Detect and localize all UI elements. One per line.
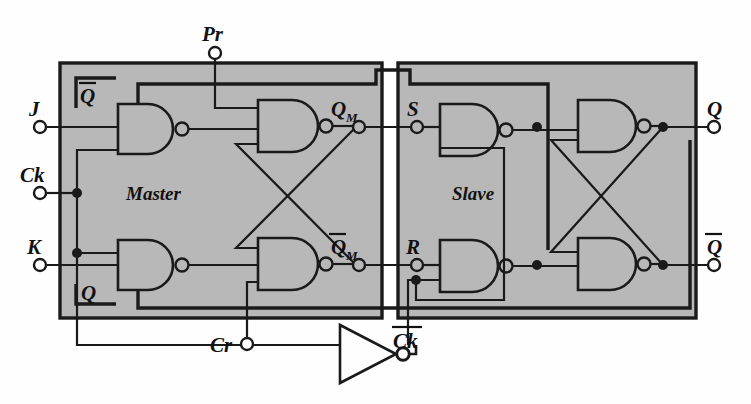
terminal-qbar-out bbox=[708, 259, 720, 271]
dot-s-node bbox=[532, 122, 542, 132]
terminal-pr bbox=[209, 47, 221, 59]
terminal-j bbox=[34, 121, 46, 133]
feedback-label-qbar-group: Q bbox=[79, 83, 96, 108]
dot-qbar-out bbox=[658, 260, 668, 270]
terminal-label-q: Q bbox=[707, 97, 722, 121]
node-label-qm: Q bbox=[331, 97, 346, 121]
terminal-label-ckbar-group: Ck bbox=[392, 327, 422, 353]
node-label-r: R bbox=[405, 235, 420, 259]
terminal-ck bbox=[34, 187, 46, 199]
node-label-qmbar-sub: M bbox=[345, 248, 358, 263]
terminal-k bbox=[34, 259, 46, 271]
terminal-label-j: J bbox=[28, 97, 41, 121]
dot-q-out bbox=[658, 122, 668, 132]
node-r bbox=[411, 259, 423, 271]
node-label-qmbar: Q bbox=[331, 235, 346, 259]
dot-ck-tap-bottom bbox=[72, 248, 82, 258]
slave-label: Slave bbox=[452, 183, 495, 204]
terminal-label-ck: Ck bbox=[20, 163, 45, 187]
terminal-label-qbar-group: Q bbox=[705, 234, 722, 259]
dot-r-node bbox=[532, 260, 542, 270]
jk-flip-flop-schematic: Master Slave J Ck K Pr Cr Ck Q Q Q M Q M… bbox=[0, 0, 751, 404]
feedback-label-q: Q bbox=[81, 281, 96, 305]
circuit-canvas: Master Slave J Ck K Pr Cr Ck Q Q Q M Q M… bbox=[0, 0, 751, 404]
master-label: Master bbox=[125, 183, 182, 204]
feedback-label-q-group: Q bbox=[81, 281, 96, 305]
terminal-label-qbar: Q bbox=[707, 235, 722, 259]
dot-ck-tap-top bbox=[72, 188, 82, 198]
terminal-label-pr: Pr bbox=[201, 22, 224, 46]
node-label-s: S bbox=[407, 97, 419, 121]
terminal-label-ckbar: Ck bbox=[393, 329, 418, 353]
terminal-q-out bbox=[708, 121, 720, 133]
terminal-label-k: K bbox=[26, 235, 43, 259]
node-s bbox=[411, 121, 423, 133]
terminal-label-cr: Cr bbox=[210, 333, 233, 357]
dot-r-clock bbox=[411, 275, 421, 285]
terminal-cr bbox=[241, 338, 253, 350]
feedback-label-qbar: Q bbox=[80, 84, 95, 108]
node-label-qm-sub: M bbox=[345, 110, 358, 125]
